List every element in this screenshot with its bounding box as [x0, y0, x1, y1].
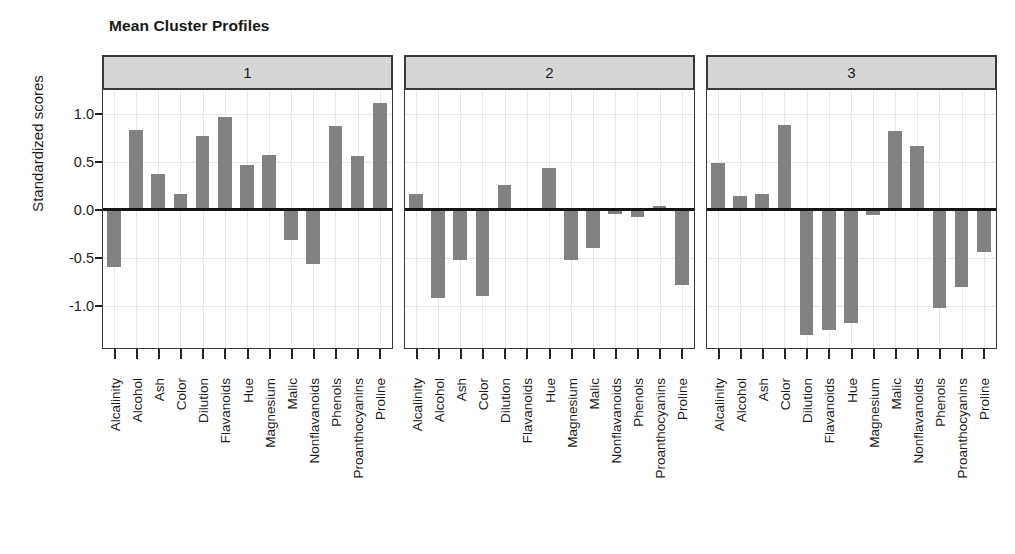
- bar-ash-cluster-2: [453, 210, 467, 260]
- x-axis-tick-mark: [460, 349, 462, 359]
- x-axis-tick-mark: [269, 349, 271, 359]
- zero-baseline: [103, 208, 392, 211]
- bar-alcohol-cluster-1: [129, 130, 143, 210]
- x-axis-tick-mark: [379, 349, 381, 359]
- x-axis-label-hue: Hue: [240, 378, 255, 403]
- horizontal-gridline: [707, 114, 996, 115]
- x-axis-tick-mark: [291, 349, 293, 359]
- panel-plot-area-1: [102, 90, 393, 349]
- panel-plot-area-3: [706, 90, 997, 349]
- x-axis-tick-row: [706, 349, 997, 375]
- panel-strip-label: 2: [545, 64, 553, 81]
- y-axis-tick-mark: [95, 161, 102, 163]
- horizontal-gridline: [405, 114, 694, 115]
- bar-alcalinity-cluster-1: [107, 210, 121, 268]
- x-axis-tick-mark: [335, 349, 337, 359]
- x-axis-tick-row: [404, 349, 695, 375]
- bar-phenols-cluster-1: [329, 126, 343, 209]
- bar-hue-cluster-1: [240, 165, 254, 210]
- vertical-gridline: [660, 90, 661, 348]
- bar-nonflavanoids-cluster-1: [306, 210, 320, 264]
- vertical-gridline: [416, 90, 417, 348]
- vertical-gridline: [895, 90, 896, 348]
- x-axis-label-alcohol: Alcohol: [733, 378, 748, 422]
- y-axis-tick-mark: [95, 209, 102, 211]
- x-axis-tick-mark: [438, 349, 440, 359]
- vertical-gridline: [505, 90, 506, 348]
- x-axis-label-alcalinity: Alcalinity: [107, 378, 122, 431]
- x-axis-label-hue: Hue: [844, 378, 859, 403]
- x-axis-label-nonflavanoids: Nonflavanoids: [910, 378, 925, 464]
- horizontal-gridline: [103, 306, 392, 307]
- x-axis-tick-mark: [180, 349, 182, 359]
- x-axis-tick-mark: [526, 349, 528, 359]
- x-axis-tick-mark: [762, 349, 764, 359]
- x-axis-label-proline: Proline: [675, 378, 690, 420]
- page-title: Mean Cluster Profiles: [109, 17, 270, 35]
- vertical-gridline: [740, 90, 741, 348]
- x-label-group-cluster-2: AlcalinityAlcoholAshColorDilutionFlavano…: [404, 378, 695, 554]
- vertical-gridline: [637, 90, 638, 348]
- bar-dilution-cluster-3: [800, 210, 814, 335]
- horizontal-gridline: [103, 162, 392, 163]
- x-axis-label-color: Color: [778, 378, 793, 410]
- x-axis-tick-mark: [114, 349, 116, 359]
- x-axis-label-color: Color: [476, 378, 491, 410]
- x-axis-label-color: Color: [174, 378, 189, 410]
- bar-color-cluster-2: [476, 210, 490, 296]
- x-label-group-cluster-1: AlcalinityAlcoholAshColorDilutionFlavano…: [102, 378, 393, 554]
- cluster-panel-2: 2: [404, 55, 695, 375]
- vertical-gridline: [269, 90, 270, 348]
- panel-row: 123: [102, 55, 1015, 375]
- x-axis-tick-mark: [593, 349, 595, 359]
- x-axis-tick-row: [102, 349, 393, 375]
- x-axis-labels: AlcalinityAlcoholAshColorDilutionFlavano…: [102, 378, 1015, 554]
- x-axis-tick-mark: [571, 349, 573, 359]
- x-axis-tick-mark: [983, 349, 985, 359]
- bar-phenols-cluster-3: [933, 210, 947, 308]
- vertical-gridline: [917, 90, 918, 348]
- bar-hue-cluster-3: [844, 210, 858, 323]
- panel-strip-label: 3: [847, 64, 855, 81]
- vertical-gridline: [762, 90, 763, 348]
- x-axis-tick-mark: [482, 349, 484, 359]
- x-axis-tick-mark: [313, 349, 315, 359]
- x-axis-tick-mark: [718, 349, 720, 359]
- x-axis-label-dilution: Dilution: [498, 378, 513, 423]
- horizontal-gridline: [103, 114, 392, 115]
- x-axis-tick-mark: [784, 349, 786, 359]
- y-axis-tick-mark: [95, 305, 102, 307]
- x-axis-label-hue: Hue: [542, 378, 557, 403]
- cluster-panel-3: 3: [706, 55, 997, 375]
- panel-strip-2: 2: [404, 55, 695, 90]
- x-axis-label-dilution: Dilution: [800, 378, 815, 423]
- x-axis-label-malic: Malic: [586, 378, 601, 410]
- x-axis-label-proline: Proline: [373, 378, 388, 420]
- bar-proline-cluster-1: [373, 103, 387, 209]
- bar-flavanoids-cluster-3: [822, 210, 836, 330]
- x-axis-tick-mark: [615, 349, 617, 359]
- bar-hue-cluster-2: [542, 168, 556, 210]
- bar-malic-cluster-2: [586, 210, 600, 248]
- horizontal-gridline: [707, 162, 996, 163]
- bar-nonflavanoids-cluster-3: [910, 146, 924, 210]
- zero-baseline: [405, 208, 694, 211]
- vertical-gridline: [358, 90, 359, 348]
- x-axis-label-ash: Ash: [453, 378, 468, 401]
- x-label-group-cluster-3: AlcalinityAlcoholAshColorDilutionFlavano…: [706, 378, 997, 554]
- panel-plot-area-2: [404, 90, 695, 349]
- x-axis-label-flavanoids: Flavanoids: [218, 378, 233, 443]
- x-axis-tick-mark: [549, 349, 551, 359]
- x-axis-label-phenols: Phenols: [631, 378, 646, 427]
- x-axis-label-proanthocyanins: Proanthocyanins: [955, 378, 970, 479]
- y-axis-tick-mark: [95, 257, 102, 259]
- y-axis-tick-label: -1.0: [69, 298, 94, 314]
- x-axis-label-phenols: Phenols: [329, 378, 344, 427]
- x-axis-label-alcalinity: Alcalinity: [409, 378, 424, 431]
- x-axis-label-flavanoids: Flavanoids: [520, 378, 535, 443]
- x-axis-tick-mark: [939, 349, 941, 359]
- bar-malic-cluster-3: [888, 131, 902, 210]
- x-axis-tick-mark: [202, 349, 204, 359]
- bar-alcalinity-cluster-3: [711, 163, 725, 210]
- x-axis-label-alcohol: Alcohol: [129, 378, 144, 422]
